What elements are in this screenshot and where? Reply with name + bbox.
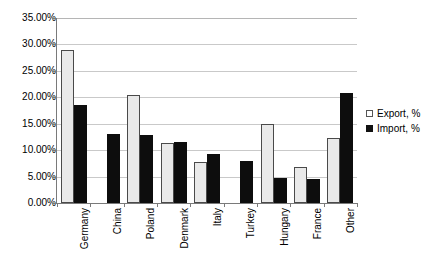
y-axis-tick-label: 5.00% (4, 172, 56, 182)
x-axis-tick-mark (190, 203, 191, 207)
x-axis-tick-mark (357, 203, 358, 207)
bar-export (161, 143, 174, 203)
bar-export (127, 95, 140, 203)
x-axis-tick-mark (57, 203, 58, 207)
x-axis-category-label: Poland (145, 208, 156, 239)
bar-export (327, 138, 340, 203)
bar-group (124, 18, 157, 203)
y-axis-tick-label: 15.00% (4, 119, 56, 129)
x-axis-category-label: Denmark (179, 208, 190, 249)
bar-import (74, 105, 87, 203)
bar-import (207, 154, 220, 203)
bar-import (140, 135, 153, 203)
legend-label: Export, % (377, 108, 420, 119)
bar-import (307, 179, 320, 203)
x-axis-tick-mark (324, 203, 325, 207)
x-axis-category-label: Turkey (245, 208, 256, 238)
bar-group (257, 18, 290, 203)
y-axis-tick-label: 0.00% (4, 198, 56, 208)
bar-import (174, 142, 187, 203)
bar-group (57, 18, 90, 203)
y-axis-tick-label: 25.00% (4, 66, 56, 76)
bar-import (107, 134, 120, 203)
bar-group (190, 18, 223, 203)
legend-swatch-export-icon (366, 110, 373, 117)
legend-item: Export, % (366, 108, 426, 119)
bar-import (240, 161, 253, 203)
x-axis-category-label: Italy (212, 208, 223, 226)
x-axis-category-label: France (312, 208, 323, 239)
y-axis-tick-label: 20.00% (4, 92, 56, 102)
plot-area (57, 18, 357, 203)
x-axis-tick-mark (124, 203, 125, 207)
bar-group (290, 18, 323, 203)
bar-export (294, 167, 307, 203)
x-axis-tick-mark (90, 203, 91, 207)
y-axis-tick-label: 35.00% (4, 13, 56, 23)
bar-import (340, 93, 353, 203)
x-axis-category-label: China (112, 208, 123, 234)
legend-swatch-import-icon (366, 125, 373, 132)
y-axis-tick-label: 10.00% (4, 145, 56, 155)
bar-group (157, 18, 190, 203)
x-axis-category-label: Other (345, 208, 356, 233)
x-axis-tick-mark (290, 203, 291, 207)
x-axis-tick-mark (224, 203, 225, 207)
chart-legend: Export, %Import, % (366, 108, 426, 138)
bar-group (324, 18, 357, 203)
y-axis-labels: 0.00%5.00%10.00%15.00%20.00%25.00%30.00%… (0, 0, 56, 259)
bar-export (194, 162, 207, 203)
bar-import (274, 178, 287, 203)
bar-export (261, 124, 274, 203)
x-axis-tick-mark (157, 203, 158, 207)
legend-label: Import, % (377, 123, 420, 134)
x-axis-line (56, 203, 358, 204)
x-axis-category-label: Hungary (279, 208, 290, 246)
x-axis-category-label: Germany (79, 208, 90, 249)
legend-item: Import, % (366, 123, 426, 134)
x-axis-tick-mark (257, 203, 258, 207)
bar-chart: 0.00%5.00%10.00%15.00%20.00%25.00%30.00%… (0, 0, 426, 259)
y-axis-tick-label: 30.00% (4, 39, 56, 49)
bar-group (90, 18, 123, 203)
bar-group (224, 18, 257, 203)
bar-export (61, 50, 74, 203)
